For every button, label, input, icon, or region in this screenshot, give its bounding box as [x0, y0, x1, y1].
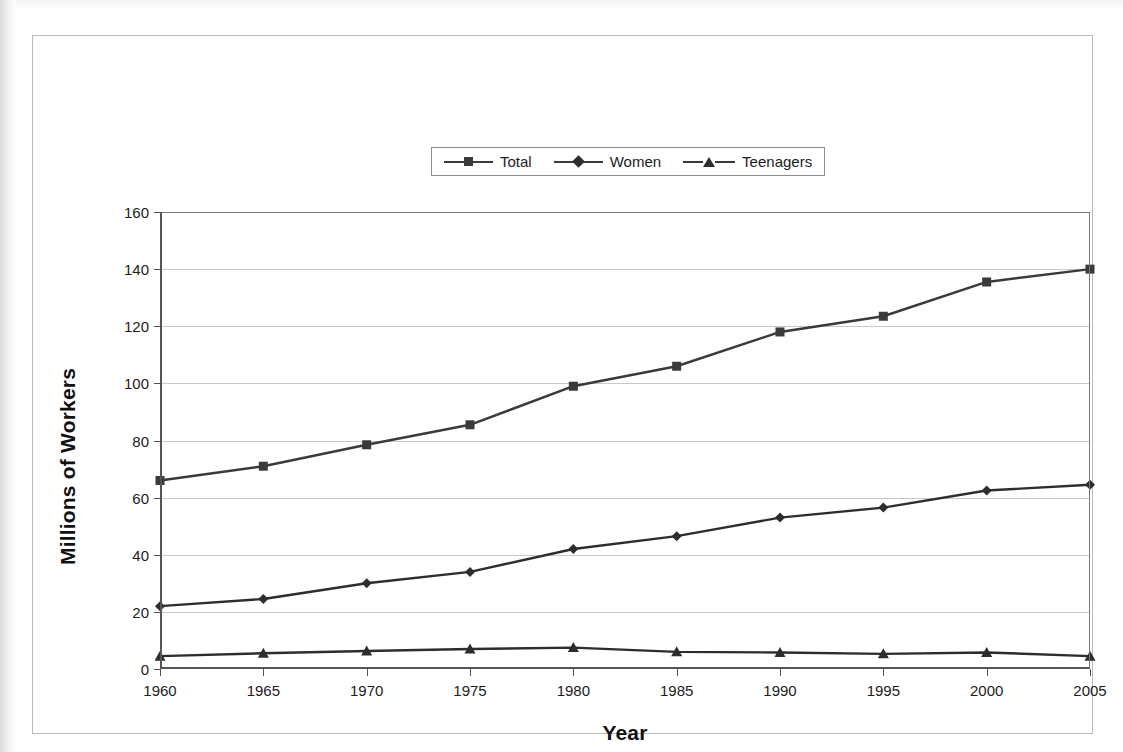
x-tick-label: 1960	[143, 682, 176, 699]
legend-entry-total: Total	[444, 153, 532, 170]
x-tick-mark	[160, 669, 161, 676]
x-tick-mark	[263, 669, 264, 676]
square-marker-icon	[569, 382, 578, 391]
x-tick-label: 1990	[763, 682, 796, 699]
y-tick-label: 120	[124, 318, 149, 335]
triangle-marker-icon	[703, 157, 715, 167]
diamond-marker-icon	[1085, 480, 1095, 490]
legend-line-icon	[444, 161, 464, 163]
series-line	[160, 648, 1090, 657]
diamond-marker-icon	[155, 601, 165, 611]
x-tick-mark	[987, 669, 988, 676]
series-line	[160, 269, 1090, 480]
legend-line-icon	[683, 161, 703, 163]
series-women	[155, 480, 1095, 611]
diamond-marker-icon	[465, 567, 475, 577]
scan-artifact-top	[0, 0, 1123, 10]
diamond-marker-icon	[572, 155, 585, 168]
legend-entry-women: Women	[554, 153, 661, 170]
diamond-marker-icon	[775, 513, 785, 523]
legend-entry-teenagers: Teenagers	[683, 153, 812, 170]
chart-legend: Total Women Teenagers	[431, 147, 825, 176]
legend-label-teenagers: Teenagers	[742, 153, 812, 170]
series-total	[156, 265, 1095, 485]
chart-frame: Total Women Teenagers Millions of Worker…	[32, 35, 1093, 734]
series-line	[160, 485, 1090, 606]
legend-line-icon	[554, 161, 574, 163]
x-tick-mark	[367, 669, 368, 676]
diamond-marker-icon	[878, 503, 888, 513]
square-marker-icon	[362, 440, 371, 449]
series-teenagers	[155, 642, 1096, 661]
x-tick-label: 1965	[247, 682, 280, 699]
y-tick-label: 160	[124, 204, 149, 221]
square-marker-icon	[1086, 265, 1095, 274]
x-tick-mark	[883, 669, 884, 676]
y-tick-label: 0	[141, 661, 149, 678]
square-marker-icon	[259, 462, 268, 471]
y-tick-label: 100	[124, 375, 149, 392]
diamond-marker-icon	[982, 485, 992, 495]
x-tick-label: 1985	[660, 682, 693, 699]
square-marker-icon	[464, 157, 473, 166]
x-tick-label: 2005	[1073, 682, 1106, 699]
x-tick-mark	[573, 669, 574, 676]
square-marker-icon	[466, 420, 475, 429]
square-marker-icon	[672, 362, 681, 371]
diamond-marker-icon	[258, 594, 268, 604]
diamond-marker-icon	[568, 544, 578, 554]
x-axis-title: Year	[160, 721, 1090, 745]
x-tick-mark	[470, 669, 471, 676]
diamond-marker-icon	[672, 531, 682, 541]
y-tick-label: 140	[124, 261, 149, 278]
y-tick-label: 80	[132, 432, 149, 449]
legend-label-women: Women	[610, 153, 661, 170]
legend-line-icon	[583, 161, 603, 163]
y-tick-label: 40	[132, 546, 149, 563]
x-tick-label: 1980	[557, 682, 590, 699]
plot-area: 020406080100120140160 196019651970197519…	[160, 212, 1090, 669]
square-marker-icon	[879, 312, 888, 321]
series-layer	[160, 212, 1090, 669]
legend-label-total: Total	[500, 153, 532, 170]
legend-line-icon	[473, 161, 493, 163]
square-marker-icon	[156, 476, 165, 485]
scan-artifact-left-edge	[0, 0, 16, 752]
y-tick-label: 20	[132, 603, 149, 620]
x-tick-mark	[1090, 669, 1091, 676]
square-marker-icon	[776, 327, 785, 336]
x-tick-label: 1995	[867, 682, 900, 699]
diamond-marker-icon	[362, 578, 372, 588]
x-tick-label: 1975	[453, 682, 486, 699]
y-axis-title: Millions of Workers	[55, 238, 81, 695]
x-tick-label: 1970	[350, 682, 383, 699]
square-marker-icon	[982, 277, 991, 286]
y-tick-label: 60	[132, 489, 149, 506]
x-tick-mark	[677, 669, 678, 676]
legend-line-icon	[715, 161, 735, 163]
x-tick-mark	[780, 669, 781, 676]
x-tick-label: 2000	[970, 682, 1003, 699]
